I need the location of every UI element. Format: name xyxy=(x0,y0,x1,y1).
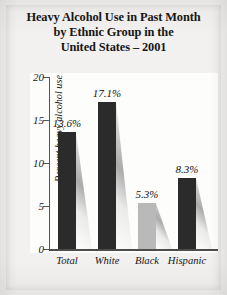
bar-shadow xyxy=(196,178,212,249)
bar-total xyxy=(58,132,76,249)
y-axis-tick-label: 0 xyxy=(39,243,45,255)
bar-hispanic xyxy=(178,178,196,249)
x-axis-line xyxy=(49,249,218,251)
y-axis-line xyxy=(49,77,50,250)
y-axis-tick-label: 20 xyxy=(33,71,44,83)
x-axis-category-label: Total xyxy=(56,255,77,266)
bar-value-label: 8.3% xyxy=(176,163,199,175)
bar-column: 17.1%White xyxy=(98,102,116,249)
bar-column: 8.3%Hispanic xyxy=(178,178,196,249)
chart-title: Heavy Alcohol Use in Past Month by Ethni… xyxy=(8,10,219,56)
chart-title-line-1: Heavy Alcohol Use in Past Month xyxy=(8,10,219,25)
y-axis-tick-label: 10 xyxy=(33,157,44,169)
bar-white xyxy=(98,102,116,249)
x-axis-category-label: Black xyxy=(135,255,159,266)
bar-column: 5.3%Black xyxy=(138,203,156,249)
x-axis-category-label: Hispanic xyxy=(168,255,206,266)
bar-value-label: 5.3% xyxy=(136,188,159,200)
y-axis-tick-label: 5 xyxy=(39,200,45,212)
bar-value-label: 13.6% xyxy=(53,117,81,129)
plot-area: Percent heavy alcohol use 05101520 13.6%… xyxy=(30,73,218,253)
chart-image: Heavy Alcohol Use in Past Month by Ethni… xyxy=(0,0,227,295)
y-axis-tick-label: 15 xyxy=(33,114,44,126)
bar-shadow xyxy=(76,132,92,249)
bar-shadow xyxy=(156,203,172,249)
chart-title-line-3: United States – 2001 xyxy=(8,40,219,55)
chart-title-line-2: by Ethnic Group in the xyxy=(8,25,219,40)
x-axis-category-label: White xyxy=(95,255,120,266)
bar-black xyxy=(138,203,156,249)
bar-column: 13.6%Total xyxy=(58,132,76,249)
bar-shadow xyxy=(116,102,132,249)
bar-value-label: 17.1% xyxy=(93,87,121,99)
